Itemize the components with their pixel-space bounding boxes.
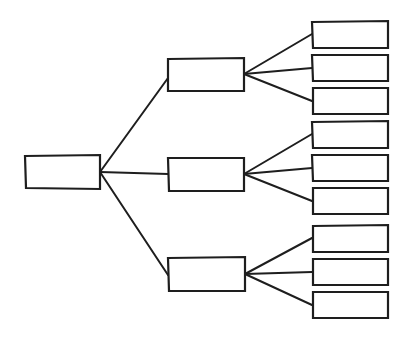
leaf-node-6 <box>313 188 388 214</box>
edge-mid-1-leaf-3 <box>244 74 312 101</box>
edge-root-mid-2 <box>100 172 168 174</box>
tree-diagram <box>0 0 414 338</box>
leaf-node-5 <box>312 155 388 181</box>
mid-node-1 <box>168 58 244 91</box>
edge-mid-3-leaf-8 <box>245 272 312 274</box>
mid-node-3 <box>168 257 245 291</box>
leaf-node-7 <box>313 225 388 252</box>
nodes <box>25 21 388 318</box>
root-node <box>25 155 100 189</box>
leaf-node-4 <box>312 121 388 148</box>
edge-root-mid-3 <box>100 172 168 275</box>
leaf-node-8 <box>313 259 388 285</box>
mid-node-2 <box>168 158 244 191</box>
edge-mid-3-leaf-9 <box>245 274 312 305</box>
leaf-node-3 <box>313 88 388 114</box>
leaf-node-9 <box>313 292 388 318</box>
edge-mid-3-leaf-7 <box>245 238 312 274</box>
edge-mid-2-leaf-6 <box>244 174 312 201</box>
edge-root-mid-1 <box>100 78 168 172</box>
leaf-node-2 <box>312 55 388 81</box>
leaf-node-1 <box>312 21 388 48</box>
